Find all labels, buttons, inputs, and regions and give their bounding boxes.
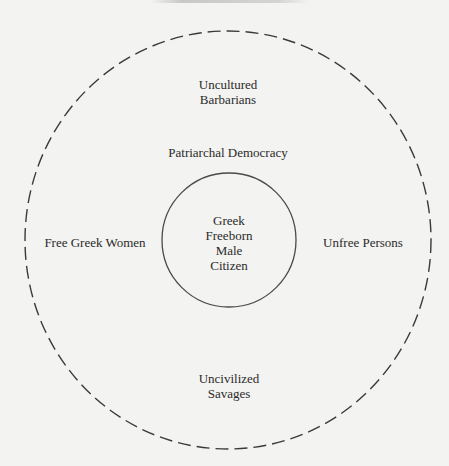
label-patriarchal-democracy: Patriarchal Democracy (168, 145, 287, 160)
label-uncultured-barbarians: Uncultured Barbarians (199, 77, 257, 107)
label-line: Savages (199, 386, 260, 401)
label-line: Male (206, 243, 253, 258)
label-line: Citizen (206, 258, 253, 273)
label-line: Freeborn (206, 228, 253, 243)
label-greek-freeborn-male-citizen: Greek Freeborn Male Citizen (206, 213, 253, 273)
label-free-greek-women: Free Greek Women (44, 235, 145, 250)
label-line: Unfree Persons (323, 235, 403, 250)
label-line: Free Greek Women (44, 235, 145, 250)
label-line: Patriarchal Democracy (168, 145, 287, 160)
label-line: Barbarians (199, 92, 257, 107)
label-uncivilized-savages: Uncivilized Savages (199, 371, 260, 401)
label-line: Uncultured (199, 77, 257, 92)
label-unfree-persons: Unfree Persons (323, 235, 403, 250)
label-line: Uncivilized (199, 371, 260, 386)
label-line: Greek (206, 213, 253, 228)
